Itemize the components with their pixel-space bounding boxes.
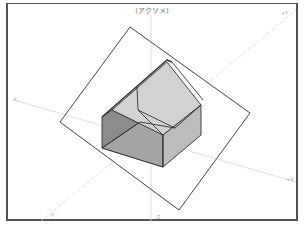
axis-label-y-neg: -Y <box>50 212 54 218</box>
axis-label-y-pos: +Y <box>281 10 288 16</box>
axonometric-viewport[interactable]: (アクソメ) -X +X +Y -Y -Z <box>0 0 304 230</box>
axis-label-z-neg: -Z <box>155 214 160 220</box>
axis-label-x-pos: +X <box>286 176 294 182</box>
axis-label-x-neg: -X <box>12 96 17 102</box>
view-title: (アクソメ) <box>0 5 304 15</box>
scene-canvas[interactable] <box>0 0 304 230</box>
